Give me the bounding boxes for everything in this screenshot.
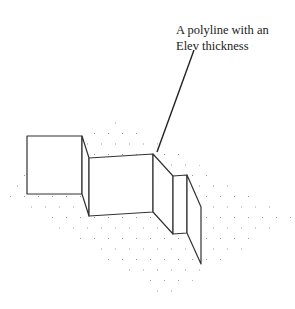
wall-segment-1 [27, 136, 82, 194]
wall-segment-5 [173, 175, 187, 234]
wall-segment-2 [82, 136, 89, 216]
wall-segment-3 [89, 154, 153, 216]
leader-line [157, 50, 194, 152]
wall-segment-6 [187, 175, 201, 264]
isometric-polyline-figure [0, 0, 295, 309]
polyline-walls [27, 136, 201, 264]
wall-segment-4 [153, 154, 173, 234]
